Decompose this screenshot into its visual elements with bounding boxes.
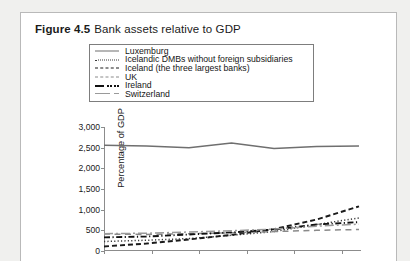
legend-line-icon: [94, 56, 120, 64]
legend-line-icon: [94, 64, 120, 72]
y-tick-label: 500: [86, 225, 100, 235]
y-tick-label: 2,500: [78, 143, 100, 153]
series-line: [104, 143, 359, 148]
figure-caption: Figure 4.5Bank assets relative to GDP: [35, 23, 241, 35]
x-tick: [152, 251, 153, 254]
series-line: [104, 218, 359, 242]
legend-line-icon: [94, 47, 120, 55]
plot-area: 3,0002,5002,0001,5001,0005000: [104, 127, 341, 251]
x-tick: [199, 251, 200, 254]
legend-line-icon: [94, 73, 120, 81]
figure-caption-text: Bank assets relative to GDP: [94, 23, 241, 35]
x-tick: [104, 251, 105, 254]
y-tick-label: 2,000: [78, 163, 100, 173]
legend-line-icon: [94, 82, 120, 90]
x-tick: [342, 251, 343, 254]
y-tick-label: 0: [95, 246, 100, 256]
y-tick-label: 1,000: [78, 205, 100, 215]
x-tick: [247, 251, 248, 254]
x-tick: [294, 251, 295, 254]
series-group: [104, 127, 363, 251]
legend-item-label: Switzerland: [125, 90, 170, 99]
y-tick-label: 3,000: [78, 122, 100, 132]
y-tick-label: 1,500: [78, 184, 100, 194]
legend-item-label: Iceland (the three largest banks): [125, 64, 250, 73]
legend-item: Switzerland: [94, 90, 310, 99]
figure-panel: Figure 4.5Bank assets relative to GDP Lu…: [20, 12, 397, 261]
figure-label: Figure 4.5: [35, 23, 90, 35]
